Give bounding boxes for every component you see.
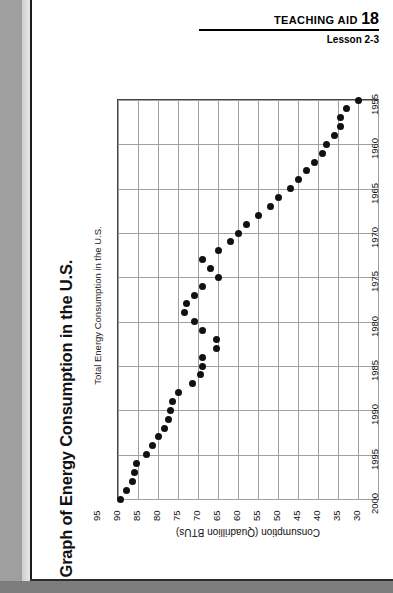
- gridline-vertical: [318, 100, 319, 499]
- year-tick-label: 1985: [369, 360, 380, 381]
- year-tick-label: 1970: [369, 227, 380, 248]
- year-tick-label: 1980: [369, 316, 380, 337]
- data-point: [131, 469, 138, 476]
- data-point: [199, 354, 206, 361]
- consumption-tick-label: 50: [271, 510, 282, 521]
- data-point: [207, 265, 214, 272]
- gridline-vertical: [218, 100, 219, 499]
- data-point: [275, 194, 282, 201]
- data-point: [319, 150, 326, 157]
- gridline-horizontal: [118, 366, 378, 367]
- data-point: [175, 389, 182, 396]
- gridline-vertical: [298, 100, 299, 499]
- consumption-tick-label: 85: [131, 510, 142, 521]
- gridline-vertical: [238, 100, 239, 499]
- consumption-tick-label: 80: [151, 510, 162, 521]
- year-tick-label: 1965: [369, 183, 380, 204]
- data-point: [181, 309, 188, 316]
- data-point: [311, 159, 318, 166]
- gridline-horizontal: [118, 410, 378, 411]
- year-tick-label: 1960: [369, 138, 380, 159]
- gridline-horizontal: [118, 189, 378, 190]
- consumption-tick-label: 30: [351, 510, 362, 521]
- data-point: [355, 97, 362, 104]
- data-point: [213, 336, 220, 343]
- gridline-horizontal: [118, 322, 378, 323]
- consumption-tick-label: 65: [211, 510, 222, 521]
- year-tick-label: 2000: [369, 493, 380, 514]
- data-point: [197, 371, 204, 378]
- data-point: [243, 221, 250, 228]
- data-point: [155, 433, 162, 440]
- gridline-vertical: [138, 100, 139, 499]
- data-point: [215, 274, 222, 281]
- teaching-aid-number: 18: [361, 10, 379, 27]
- page-bottom-band: [0, 581, 393, 593]
- page-header: TEACHING AID 18 Lesson 2-3: [199, 10, 379, 45]
- chart-subtitle: Total Energy Consumption in the U.S.: [92, 191, 103, 421]
- page-title: Graph of Energy Consumption in the U.S.: [57, 218, 76, 578]
- gridline-horizontal: [118, 455, 378, 456]
- data-point: [191, 292, 198, 299]
- year-tick-label: 1990: [369, 404, 380, 425]
- consumption-tick-label: 60: [231, 510, 242, 521]
- data-point: [117, 496, 124, 503]
- data-point: [331, 132, 338, 139]
- worksheet-page: TEACHING AID 18 Lesson 2-3 Graph of Ener…: [30, 0, 393, 581]
- data-point: [133, 460, 140, 467]
- data-point: [189, 380, 196, 387]
- data-point: [169, 398, 176, 405]
- lesson-label: Lesson 2-3: [199, 34, 379, 45]
- gridline-horizontal: [118, 499, 378, 500]
- consumption-tick-label: 90: [111, 510, 122, 521]
- data-point: [165, 416, 172, 423]
- gridline-horizontal: [118, 100, 378, 101]
- teaching-aid-heading: TEACHING AID 18: [199, 10, 379, 28]
- data-point: [255, 212, 262, 219]
- gridline-horizontal: [118, 277, 378, 278]
- data-point: [267, 203, 274, 210]
- data-point: [235, 230, 242, 237]
- data-point: [199, 256, 206, 263]
- consumption-axis-title: Consumption (Quadrillion BTUs): [114, 527, 382, 538]
- data-point: [337, 114, 344, 121]
- data-point: [213, 345, 220, 352]
- data-point: [303, 167, 310, 174]
- data-point: [183, 300, 190, 307]
- data-point: [215, 247, 222, 254]
- data-point: [191, 318, 198, 325]
- consumption-tick-label: 35: [331, 510, 342, 521]
- gridline-vertical: [258, 100, 259, 499]
- consumption-tick-label: 45: [291, 510, 302, 521]
- data-point: [323, 141, 330, 148]
- consumption-tick-label: 95: [91, 510, 102, 521]
- year-tick-label: 1975: [369, 271, 380, 292]
- gridline-vertical: [358, 100, 359, 499]
- year-tick-label: 1955: [369, 94, 380, 115]
- data-point: [295, 176, 302, 183]
- consumption-tick-label: 75: [171, 510, 182, 521]
- consumption-tick-label: 40: [311, 510, 322, 521]
- gridline-horizontal: [118, 144, 378, 145]
- data-point: [227, 238, 234, 245]
- data-point: [149, 442, 156, 449]
- data-point: [123, 487, 130, 494]
- data-point: [199, 283, 206, 290]
- data-point: [161, 425, 168, 432]
- data-point: [199, 363, 206, 370]
- data-point: [337, 123, 344, 130]
- data-point: [129, 478, 136, 485]
- consumption-tick-label: 55: [251, 510, 262, 521]
- gridline-vertical: [278, 100, 279, 499]
- teaching-aid-label: TEACHING AID: [274, 14, 358, 26]
- scatter-plot-area: [117, 99, 379, 500]
- gridline-vertical: [118, 100, 119, 499]
- consumption-tick-label: 70: [191, 510, 202, 521]
- data-point: [287, 185, 294, 192]
- gridline-vertical: [338, 100, 339, 499]
- year-tick-label: 1995: [369, 449, 380, 470]
- data-point: [199, 327, 206, 334]
- gridline-horizontal: [118, 233, 378, 234]
- gridline-vertical: [378, 100, 379, 499]
- gridline-vertical: [178, 100, 179, 499]
